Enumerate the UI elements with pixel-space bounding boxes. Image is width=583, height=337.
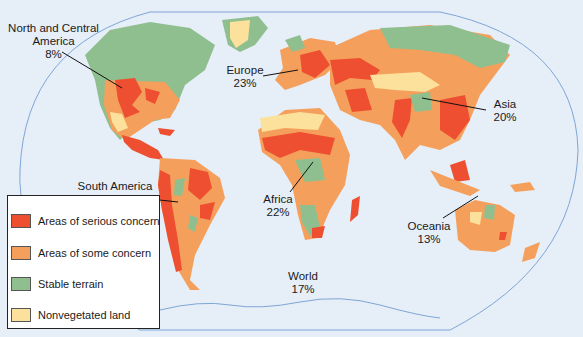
- label-asia: Asia 20%: [490, 98, 520, 124]
- swatch-serious-concern: [11, 214, 31, 228]
- region-value: 20%: [490, 111, 520, 124]
- region-name: North and Central: [6, 22, 101, 35]
- region-value: 17%: [283, 283, 323, 296]
- label-oceania: Oceania 13%: [404, 220, 454, 246]
- swatch-stable-terrain: [11, 277, 31, 291]
- region-name-line2: America: [6, 35, 101, 48]
- legend-label: Areas of some concern: [38, 247, 151, 259]
- region-name: Oceania: [404, 220, 454, 233]
- swatch-nonvegetated: [11, 308, 31, 322]
- label-north-central-america: North and Central America 8%: [6, 22, 101, 61]
- legend-item-stable-terrain: Stable terrain: [11, 277, 103, 291]
- legend-item-serious-concern: Areas of serious concern: [11, 214, 160, 228]
- region-value: 22%: [258, 206, 298, 219]
- region-value: 23%: [225, 77, 265, 90]
- legend-label: Nonvegetated land: [38, 309, 130, 321]
- region-value: 13%: [404, 233, 454, 246]
- label-africa: Africa 22%: [258, 193, 298, 219]
- swatch-some-concern: [11, 246, 31, 260]
- region-name: World: [283, 270, 323, 283]
- region-name: Europe: [225, 64, 265, 77]
- region-name: South America: [75, 180, 155, 193]
- region-value: 8%: [6, 48, 101, 61]
- legend: Areas of serious concern Areas of some c…: [7, 195, 160, 329]
- legend-label: Stable terrain: [38, 278, 103, 290]
- legend-label: Areas of serious concern: [38, 215, 160, 227]
- legend-item-nonvegetated: Nonvegetated land: [11, 308, 130, 322]
- legend-item-some-concern: Areas of some concern: [11, 246, 151, 260]
- label-europe: Europe 23%: [225, 64, 265, 90]
- region-name: Africa: [258, 193, 298, 206]
- region-name: Asia: [490, 98, 520, 111]
- label-world: World 17%: [283, 270, 323, 296]
